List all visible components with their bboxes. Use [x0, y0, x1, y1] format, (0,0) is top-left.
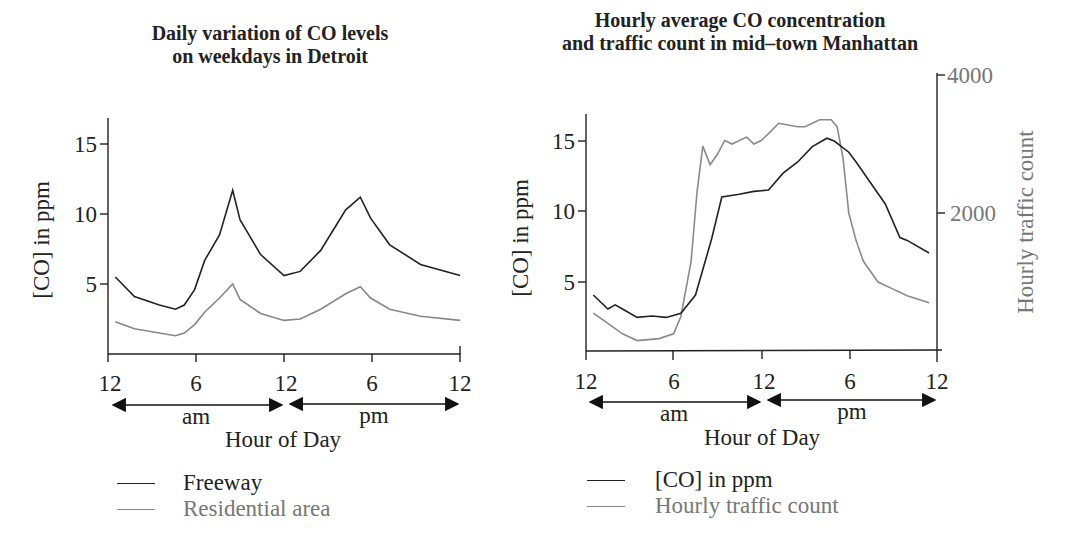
left-chart: 15 10 5 [CO] in ppm 12 6 12 6 12 am pm H…: [29, 118, 472, 452]
left-xtick-4: 12: [449, 371, 472, 396]
right-ytick-2000: 2000: [950, 201, 996, 226]
right-pm-label: pm: [837, 399, 867, 424]
legend-item-traffic: Hourly traffic count: [587, 493, 839, 519]
legend-item-freeway: Freeway: [117, 470, 331, 496]
right-ytick-15: 15: [552, 129, 575, 154]
left-xtick-3: 6: [366, 371, 378, 396]
traffic-swatch: [587, 506, 625, 507]
right-xtick-4: 12: [926, 369, 949, 394]
left-xtick-2: 12: [275, 371, 298, 396]
legend-label-co: [CO] in ppm: [655, 467, 773, 493]
right-legend: [CO] in ppm Hourly traffic count: [587, 467, 839, 519]
residential-line: [115, 284, 460, 336]
right-y-label-right: Hourly traffic count: [1013, 130, 1038, 314]
right-ytick-5: 5: [564, 270, 576, 295]
legend-item-co: [CO] in ppm: [587, 467, 839, 493]
legend-label-residential: Residential area: [183, 496, 331, 522]
right-xtick-2: 12: [753, 369, 776, 394]
right-xtick-1: 6: [668, 369, 680, 394]
left-legend: Freeway Residential area: [117, 470, 331, 522]
right-xtick-0: 12: [575, 369, 598, 394]
legend-label-freeway: Freeway: [183, 470, 262, 496]
left-am-label: am: [182, 404, 210, 429]
right-x-axis: [586, 350, 942, 351]
left-pm-label: pm: [359, 403, 389, 428]
co-ppm-line: [593, 138, 929, 317]
right-ytick-10: 10: [552, 199, 575, 224]
left-y-label: [CO] in ppm: [29, 181, 54, 299]
right-y-label: [CO] in ppm: [508, 179, 533, 297]
charts-canvas: 15 10 5 [CO] in ppm 12 6 12 6 12 am pm H…: [0, 0, 1070, 548]
right-x-label: Hour of Day: [704, 425, 821, 450]
right-ytick-4000: 4000: [947, 63, 993, 88]
residential-swatch: [117, 509, 155, 510]
right-xtick-3: 6: [844, 369, 856, 394]
right-am-label: am: [660, 401, 688, 426]
left-xtick-0: 12: [99, 371, 122, 396]
right-chart: 15 10 5 [CO] in ppm 4000 2000 Hourly tra…: [508, 63, 1038, 450]
left-xtick-1: 6: [190, 371, 202, 396]
left-ytick-10: 10: [74, 202, 97, 227]
left-x-label: Hour of Day: [225, 427, 342, 452]
left-ytick-5: 5: [86, 272, 98, 297]
legend-item-residential: Residential area: [117, 496, 331, 522]
traffic-count-line: [593, 120, 929, 341]
freeway-swatch: [117, 483, 155, 484]
co-swatch: [587, 480, 625, 481]
legend-label-traffic: Hourly traffic count: [655, 493, 839, 519]
left-ytick-15: 15: [74, 132, 97, 157]
freeway-line: [115, 190, 460, 309]
